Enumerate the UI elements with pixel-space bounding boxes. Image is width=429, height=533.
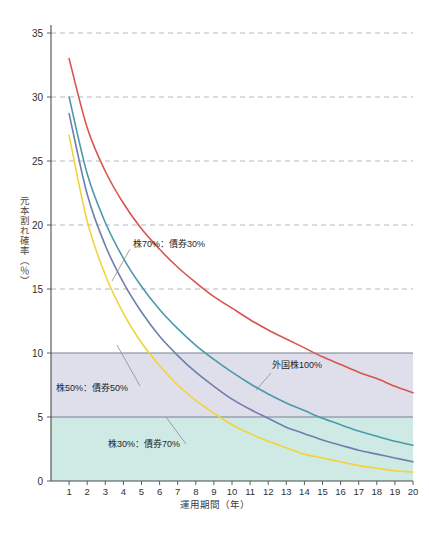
y-tick-label-0: 0 (37, 476, 43, 487)
y-tick-label-20: 20 (32, 220, 44, 231)
x-tick-label-19: 19 (390, 486, 401, 497)
chart-container: 元本割れ確率（％） 運用期間（年） 05101520253035 1234567… (0, 0, 429, 533)
y-axis-title: 元本割れ確率（％） (16, 196, 32, 286)
band-0-5 (51, 417, 413, 481)
y-tick-label-10: 10 (32, 348, 44, 359)
x-tick-label-16: 16 (335, 486, 346, 497)
x-tick-labels: 1234567891011121314151617181920 (66, 486, 418, 497)
x-tick-label-10: 10 (227, 486, 238, 497)
x-tick-label-11: 11 (245, 486, 255, 497)
x-axis-title: 運用期間（年） (0, 497, 429, 511)
x-tick-label-20: 20 (408, 486, 419, 497)
annotation-kabu70: 株70%：債券30% (133, 238, 205, 249)
series-line-0 (69, 59, 413, 393)
x-tick-label-13: 13 (281, 486, 292, 497)
y-tick-label-25: 25 (32, 156, 44, 167)
x-tick-label-3: 3 (103, 486, 108, 497)
line-chart-plot: 05101520253035 1234567891011121314151617… (0, 0, 429, 533)
y-tick-label-35: 35 (32, 28, 44, 39)
y-tick-label-30: 30 (32, 92, 44, 103)
y-tick-label-5: 5 (37, 412, 43, 423)
x-tick-label-2: 2 (85, 486, 90, 497)
y-tick-labels: 05101520253035 (32, 28, 44, 487)
x-tick-label-18: 18 (372, 486, 383, 497)
x-tick-label-15: 15 (317, 486, 328, 497)
x-tick-label-9: 9 (211, 486, 216, 497)
x-tick-label-17: 17 (353, 486, 364, 497)
x-tick-label-5: 5 (139, 486, 144, 497)
x-tick-label-8: 8 (193, 486, 198, 497)
x-tick-label-1: 1 (66, 486, 71, 497)
x-tick-label-4: 4 (121, 486, 126, 497)
x-tick-label-6: 6 (157, 486, 162, 497)
x-tick-label-12: 12 (263, 486, 274, 497)
annotation-kabu30: 株30%：債券70% (108, 438, 180, 449)
y-tick-label-15: 15 (32, 284, 44, 295)
x-tick-label-14: 14 (299, 486, 310, 497)
x-tick-label-7: 7 (175, 486, 180, 497)
annotation-kabu50: 株50%：債券50% (56, 382, 128, 393)
annotation-gaikokukabu100: 外国株100% (272, 359, 322, 370)
